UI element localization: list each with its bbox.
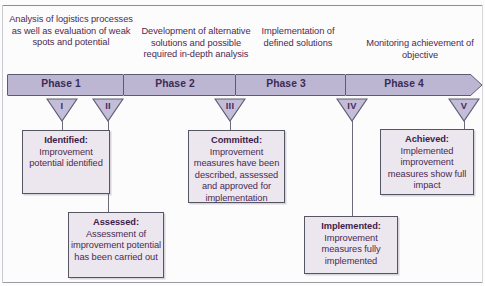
milestone-triangle-2[interactable]: II: [92, 98, 124, 122]
milestone-triangle-4[interactable]: IV: [336, 98, 368, 122]
box-implemented-body: Improvement measures fully implemented: [322, 233, 381, 266]
milestone-triangle-1[interactable]: I: [46, 98, 78, 122]
milestone-numeral-1: I: [46, 100, 78, 111]
milestone-numeral-2: II: [92, 100, 124, 111]
connector-line-1: [62, 120, 63, 130]
box-achieved[interactable]: Achieved: Implemented improvement measur…: [380, 129, 474, 195]
box-identified-body: Improvement potential identified: [29, 147, 103, 169]
phase-chevron-3[interactable]: Phase 3: [236, 74, 344, 96]
top-divider-line: [2, 5, 483, 6]
phase-description-1: Analysis of logistics processes as well …: [8, 14, 134, 49]
milestone-numeral-4: IV: [336, 100, 368, 111]
phase-label-3: Phase 3: [236, 78, 336, 89]
milestone-triangle-3[interactable]: III: [214, 98, 246, 122]
phase-description-4: Monitoring achievement of objective: [358, 38, 482, 61]
milestone-triangle-5[interactable]: V: [448, 98, 480, 122]
phase-chevron-2[interactable]: Phase 2: [124, 74, 234, 96]
box-implemented-title: Implemented:: [321, 221, 381, 231]
phase-milestone-diagram: Analysis of logistics processes as well …: [0, 0, 485, 286]
left-border-line: [2, 5, 3, 283]
phase-label-1: Phase 1: [8, 78, 114, 89]
phase-chevron-1[interactable]: Phase 1: [8, 74, 122, 96]
phase-chevron-4[interactable]: Phase 4: [346, 74, 470, 96]
milestone-numeral-3: III: [214, 100, 246, 111]
right-border-line: [482, 5, 483, 283]
box-committed[interactable]: Committed: Improvement measures have bee…: [188, 130, 285, 203]
box-assessed-title: Assessed:: [93, 217, 139, 227]
phase-label-2: Phase 2: [124, 78, 226, 89]
box-achieved-body: Implemented improvement measures show fu…: [388, 146, 466, 191]
box-assessed-body: Assessment of improvement potential has …: [71, 229, 161, 262]
box-implemented[interactable]: Implemented: Improvement measures fully …: [304, 216, 398, 274]
connector-line-4: [352, 120, 353, 216]
connector-line-5: [464, 120, 465, 129]
box-identified-title: Identified:: [44, 135, 88, 145]
box-identified[interactable]: Identified: Improvement potential identi…: [22, 130, 110, 194]
phase-label-4: Phase 4: [346, 78, 462, 89]
box-committed-body: Improvement measures have been described…: [194, 147, 280, 203]
box-assessed[interactable]: Assessed: Assessment of improvement pote…: [68, 212, 164, 278]
phase-description-2: Development of alternative solutions and…: [133, 26, 259, 61]
phase-description-3: Implementation of defined solutions: [249, 26, 347, 49]
milestone-numeral-5: V: [448, 100, 480, 111]
connector-line-3: [230, 120, 231, 130]
box-committed-title: Committed:: [211, 135, 262, 145]
bottom-divider-line: [2, 282, 483, 283]
box-achieved-title: Achieved:: [405, 134, 449, 144]
chevron-arrow-tip-4: [470, 74, 482, 96]
